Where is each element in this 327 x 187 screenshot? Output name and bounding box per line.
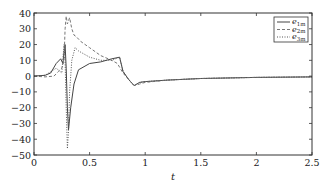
x-tick-label: 1 bbox=[142, 157, 148, 168]
y-tick-label: −30 bbox=[11, 118, 31, 129]
legend: e1m e2m e3m bbox=[274, 17, 308, 42]
y-tick-label: −10 bbox=[11, 86, 31, 97]
series-line-e2m bbox=[34, 16, 312, 85]
y-tick-label: 10 bbox=[19, 55, 31, 66]
series-layer bbox=[34, 16, 312, 149]
y-tick-label: −50 bbox=[11, 150, 31, 161]
x-tick-label: 2.5 bbox=[304, 157, 319, 168]
x-axis-label: t bbox=[171, 171, 176, 182]
y-tick-label: 0 bbox=[25, 71, 31, 82]
x-tick-label: 0.5 bbox=[82, 157, 97, 168]
y-tick-label: −40 bbox=[11, 134, 31, 145]
y-tick-label: 20 bbox=[19, 39, 31, 50]
plot-frame bbox=[34, 13, 312, 155]
series-line-e1m bbox=[34, 45, 312, 130]
line-chart: 00.511.522.5403020100−10−20−30−40−50 t e… bbox=[0, 0, 327, 187]
x-tick-label: 1.5 bbox=[193, 157, 208, 168]
y-tick-label: −20 bbox=[11, 102, 31, 113]
axis-ticks: 00.511.522.5403020100−10−20−30−40−50 bbox=[11, 8, 320, 169]
y-tick-label: 30 bbox=[19, 23, 31, 34]
y-tick-label: 40 bbox=[19, 8, 31, 19]
x-tick-label: 2 bbox=[253, 157, 259, 168]
series-line-e3m bbox=[34, 45, 312, 149]
x-tick-label: 0 bbox=[31, 157, 37, 168]
